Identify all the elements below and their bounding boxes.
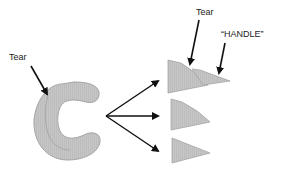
tear-top-label: Tear — [196, 8, 214, 17]
handle-label: “HANDLE” — [221, 30, 264, 39]
tear-left-arrow — [31, 66, 47, 94]
triangle-bottom — [172, 138, 210, 163]
diagram-svg — [0, 0, 281, 171]
tear-left-label: Tear — [9, 53, 27, 62]
triangle-middle — [171, 99, 210, 130]
handle-arrow — [219, 43, 225, 73]
tear-top-arrow — [190, 20, 199, 64]
diagram-canvas: Tear Tear “HANDLE” — [0, 0, 281, 171]
branch-arrows — [106, 81, 158, 151]
c-shaped-piece — [34, 82, 100, 160]
